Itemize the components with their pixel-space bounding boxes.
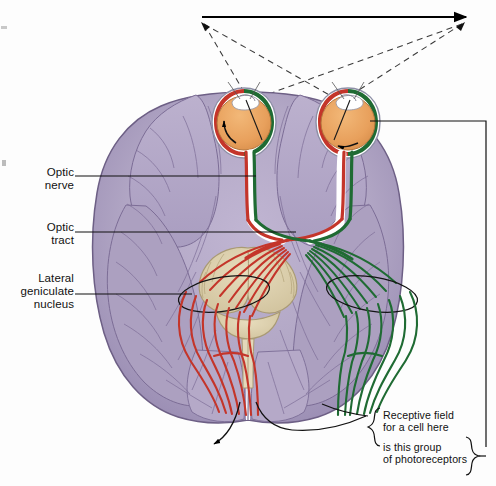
label-receptive-field: Receptive field for a cell here (383, 409, 489, 434)
green-optic-nerve-left (254, 152, 256, 220)
label-lateral-geniculate-nucleus: Lateral geniculate nucleus (2, 272, 74, 312)
sight-line-arrowheads (201, 22, 465, 31)
label-optic-tract: Optic tract (8, 221, 74, 247)
red-optic-nerve-left (246, 152, 248, 220)
left-eye-lens (232, 95, 259, 110)
label-optic-nerve: Optic nerve (8, 166, 74, 192)
scan-artifacts (1, 26, 7, 166)
red-optic-nerve-right (342, 152, 344, 219)
green-optic-nerve-right (350, 152, 352, 219)
visual-pathway-figure: Optic nerve Optic tract Lateral genicula… (0, 0, 496, 486)
label-photoreceptors: is this group of photoreceptors (383, 441, 493, 466)
